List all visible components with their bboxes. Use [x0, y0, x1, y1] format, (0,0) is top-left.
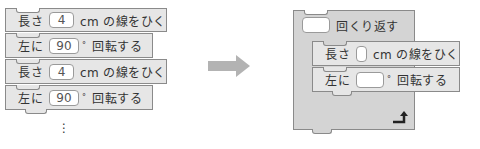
degree-symbol: ° [82, 93, 86, 102]
block-prefix: 長さ [325, 45, 350, 62]
block-suffix: 回転する [397, 71, 447, 88]
block-prefix: 左に [325, 71, 350, 88]
block-notch [16, 85, 40, 90]
block-prefix: 左に [18, 37, 43, 54]
inner-draw-line-block[interactable]: 長さ cm の線をひく [312, 41, 460, 66]
repeat-bottom-tab [312, 129, 332, 134]
block-suffix: cm の線をひく [80, 12, 166, 29]
block-suffix: cm の線をひく [373, 45, 459, 62]
block-notch [304, 10, 328, 15]
block-prefix: 長さ [18, 12, 43, 29]
angle-input[interactable] [356, 72, 384, 88]
angle-input[interactable]: 90 [49, 38, 79, 54]
block-suffix: 回転する [92, 37, 142, 54]
angle-input[interactable]: 90 [49, 90, 79, 106]
draw-line-block-1[interactable]: 長さ 4 cm の線をひく [5, 8, 167, 32]
block-notch [16, 59, 40, 64]
length-input[interactable]: 4 [49, 12, 74, 28]
block-suffix: 回転する [92, 89, 142, 106]
block-prefix: 左に [18, 89, 43, 106]
draw-line-block-2[interactable]: 長さ 4 cm の線をひく [5, 59, 167, 84]
turn-left-block-2[interactable]: 左に 90 ° 回転する [5, 85, 153, 110]
block-notch [323, 41, 347, 46]
bottom-tab [25, 109, 47, 114]
repeat-count-input[interactable] [302, 17, 330, 33]
right-arrow-icon [208, 55, 252, 77]
continuation-dots: ⋮ [58, 124, 70, 132]
block-suffix: cm の線をひく [80, 63, 166, 80]
block-notch [323, 67, 347, 72]
loop-arrow-icon [392, 111, 410, 125]
block-prefix: 長さ [18, 63, 43, 80]
block-notch [16, 33, 40, 38]
block-notch [16, 8, 40, 13]
degree-symbol: ° [82, 41, 86, 50]
inner-bottom-tab [332, 91, 352, 96]
length-input[interactable] [356, 46, 367, 62]
turn-left-block-1[interactable]: 左に 90 ° 回転する [5, 33, 153, 58]
length-input[interactable]: 4 [49, 64, 74, 80]
degree-symbol: ° [387, 75, 391, 84]
repeat-label: 回くり返す [336, 17, 399, 34]
inner-turn-left-block[interactable]: 左に ° 回転する [312, 67, 460, 92]
